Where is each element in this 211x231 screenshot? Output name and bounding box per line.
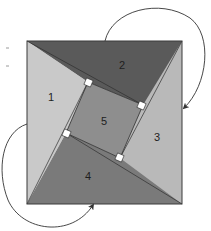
- label-triangle-2: 2: [119, 59, 125, 71]
- label-triangle-1: 1: [48, 91, 54, 103]
- label-triangle-4: 4: [85, 170, 91, 182]
- pythagorean-dissection-diagram: 1 2 3 4 5: [0, 0, 211, 231]
- label-inner-square-5: 5: [101, 115, 107, 127]
- label-triangle-3: 3: [154, 131, 160, 143]
- left-tick-marks: [6, 48, 9, 66]
